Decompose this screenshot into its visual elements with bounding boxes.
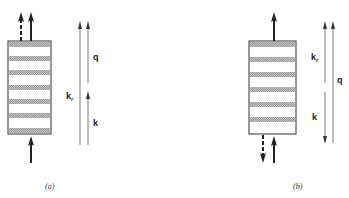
input-up-arrow-icon bbox=[28, 136, 34, 163]
vector-q-b bbox=[331, 21, 335, 143]
label-k-b: k bbox=[312, 112, 318, 122]
dashed-down-arrow-icon bbox=[260, 135, 266, 163]
caption-b: (b) bbox=[293, 182, 303, 191]
input-up-arrow-icon bbox=[271, 136, 277, 163]
label-q-a: q bbox=[93, 52, 99, 62]
label-q-b: q bbox=[337, 75, 343, 85]
panel-b: kr k q (b) bbox=[249, 12, 343, 191]
label-kr-b: kr bbox=[311, 52, 319, 63]
dashed-up-arrow-icon bbox=[18, 12, 24, 41]
solid-up-arrow-icon bbox=[28, 12, 34, 41]
caption-a: (a) bbox=[45, 182, 55, 191]
crystal-slab-b bbox=[249, 41, 296, 134]
solid-up-arrow-icon bbox=[271, 12, 277, 41]
label-kr-a: kr bbox=[66, 91, 74, 102]
label-k-a: k bbox=[93, 118, 99, 128]
vector-k-b bbox=[323, 92, 327, 144]
panel-a: q kr k (a) bbox=[8, 12, 99, 191]
diagram-canvas: q kr k (a) bbox=[0, 0, 349, 198]
vector-q-a bbox=[86, 21, 90, 83]
vector-k-a bbox=[86, 91, 90, 145]
crystal-slab-a bbox=[8, 41, 51, 134]
vector-kr-b bbox=[323, 21, 327, 83]
vector-kr-a bbox=[78, 21, 82, 145]
